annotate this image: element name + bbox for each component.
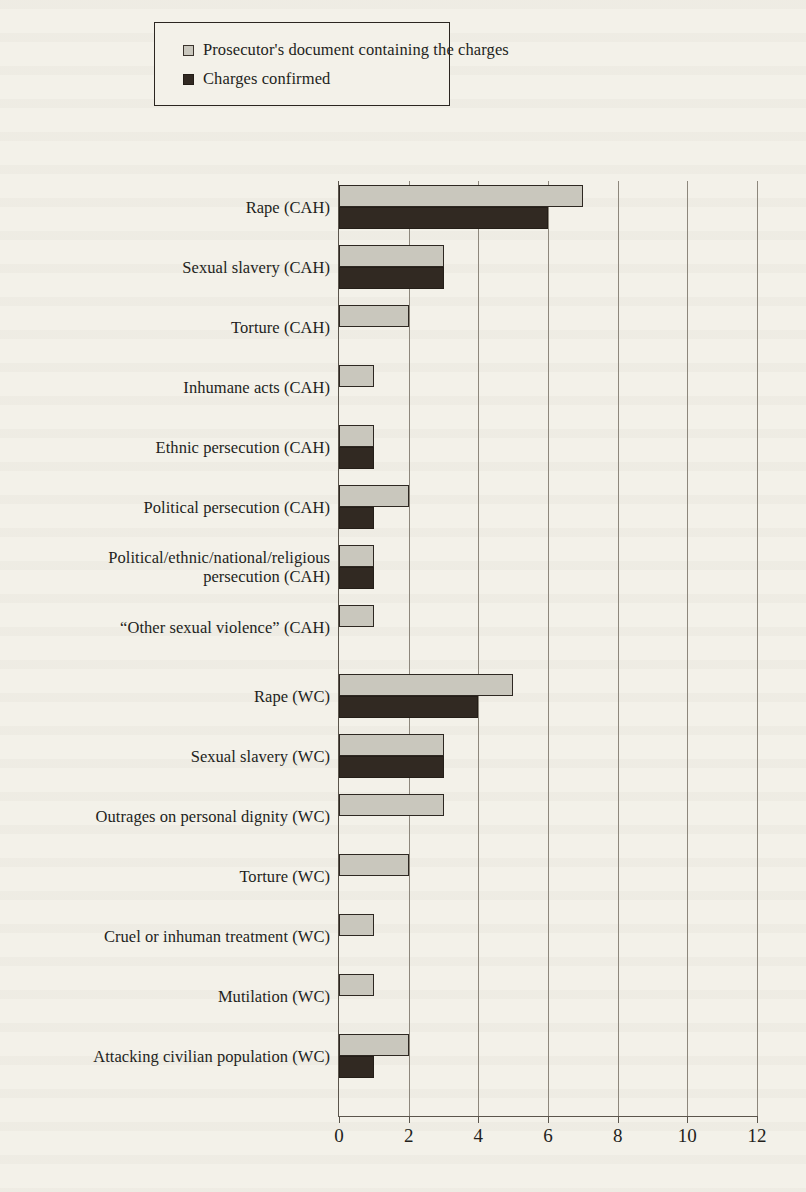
- category-label: Torture (CAH): [0, 318, 330, 337]
- bar-group: Rape (WC): [339, 674, 757, 718]
- x-axis-tick: [548, 1116, 549, 1123]
- bar-charges-confirmed: [339, 507, 374, 529]
- bar-prosecutor-document: [339, 854, 409, 876]
- bar-group: Mutilation (WC): [339, 974, 757, 1018]
- bar-charges-confirmed: [339, 756, 444, 778]
- bar-group: Torture (CAH): [339, 305, 757, 349]
- light-square-icon: [183, 45, 194, 56]
- bar-charges-confirmed: [339, 207, 548, 229]
- category-label: Sexual slavery (WC): [0, 747, 330, 766]
- bar-prosecutor-document: [339, 545, 374, 567]
- x-axis-label: 6: [543, 1126, 553, 1145]
- category-label: Mutilation (WC): [0, 987, 330, 1006]
- category-label: Sexual slavery (CAH): [0, 258, 330, 277]
- x-axis-label: 2: [404, 1126, 414, 1145]
- bar-prosecutor-document: [339, 245, 444, 267]
- x-axis-tick: [409, 1116, 410, 1123]
- bar-prosecutor-document: [339, 794, 444, 816]
- bar-charges-confirmed: [339, 696, 478, 718]
- bar-charges-confirmed: [339, 567, 374, 589]
- category-label: Inhumane acts (CAH): [0, 378, 330, 397]
- x-axis-label: 0: [334, 1126, 344, 1145]
- legend-item-prosecutor-document: Prosecutor's document containing the cha…: [183, 36, 449, 65]
- category-label: “Other sexual violence” (CAH): [0, 618, 330, 637]
- x-axis-tick: [757, 1116, 758, 1123]
- category-label: Rape (WC): [0, 687, 330, 706]
- bar-prosecutor-document: [339, 605, 374, 627]
- gridline: [757, 181, 758, 1116]
- bar-charges-confirmed: [339, 267, 444, 289]
- legend-label-charges-confirmed: Charges confirmed: [203, 71, 330, 88]
- category-label: Political persecution (CAH): [0, 498, 330, 517]
- x-axis-tick: [687, 1116, 688, 1123]
- x-axis-tick: [339, 1116, 340, 1123]
- bar-group: “Other sexual violence” (CAH): [339, 605, 757, 649]
- x-axis-label: 8: [613, 1126, 623, 1145]
- bar-group: Attacking civilian population (WC): [339, 1034, 757, 1078]
- bar-prosecutor-document: [339, 365, 374, 387]
- bar-group: Political persecution (CAH): [339, 485, 757, 529]
- bar-group: Rape (CAH): [339, 185, 757, 229]
- bar-charges-confirmed: [339, 447, 374, 469]
- bar-charges-confirmed: [339, 1056, 374, 1078]
- bar-group: Inhumane acts (CAH): [339, 365, 757, 409]
- bar-prosecutor-document: [339, 305, 409, 327]
- category-label: Attacking civilian population (WC): [0, 1047, 330, 1066]
- bar-prosecutor-document: [339, 914, 374, 936]
- bar-prosecutor-document: [339, 485, 409, 507]
- plot-area: Rape (CAH)Sexual slavery (CAH)Torture (C…: [338, 181, 757, 1117]
- x-axis-label: 12: [748, 1126, 767, 1145]
- legend-item-charges-confirmed: Charges confirmed: [183, 65, 449, 94]
- bar-prosecutor-document: [339, 1034, 409, 1056]
- bar-chart-figure: Prosecutor's document containing the cha…: [0, 0, 806, 1192]
- bar-rows: Rape (CAH)Sexual slavery (CAH)Torture (C…: [339, 181, 757, 1116]
- category-label: Political/ethnic/national/religious pers…: [0, 548, 330, 586]
- x-axis-tick: [478, 1116, 479, 1123]
- category-label: Ethnic persecution (CAH): [0, 438, 330, 457]
- legend-label-prosecutor-document: Prosecutor's document containing the cha…: [203, 42, 509, 59]
- bar-group: Outrages on personal dignity (WC): [339, 794, 757, 838]
- bar-group: Sexual slavery (WC): [339, 734, 757, 778]
- x-axis-label: 4: [474, 1126, 484, 1145]
- bar-prosecutor-document: [339, 734, 444, 756]
- bar-prosecutor-document: [339, 185, 583, 207]
- bar-prosecutor-document: [339, 674, 513, 696]
- bar-group: Cruel or inhuman treatment (WC): [339, 914, 757, 958]
- bar-group: Sexual slavery (CAH): [339, 245, 757, 289]
- bar-group: Torture (WC): [339, 854, 757, 898]
- x-axis-tick: [618, 1116, 619, 1123]
- bar-prosecutor-document: [339, 425, 374, 447]
- category-label: Cruel or inhuman treatment (WC): [0, 927, 330, 946]
- dark-square-icon: [183, 74, 194, 85]
- chart-legend: Prosecutor's document containing the cha…: [154, 22, 450, 106]
- category-label: Rape (CAH): [0, 198, 330, 217]
- bar-group: Ethnic persecution (CAH): [339, 425, 757, 469]
- x-axis-label: 10: [678, 1126, 697, 1145]
- category-label: Torture (WC): [0, 867, 330, 886]
- bar-group: Political/ethnic/national/religious pers…: [339, 545, 757, 589]
- category-label: Outrages on personal dignity (WC): [0, 807, 330, 826]
- bar-prosecutor-document: [339, 974, 374, 996]
